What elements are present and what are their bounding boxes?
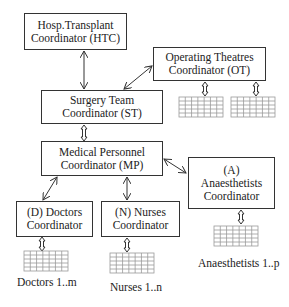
block-arrow-d-table [39, 237, 45, 251]
block-arrow-st-mp [81, 125, 87, 141]
label-anaesthetists: Anaesthetists 1..p [198, 257, 279, 269]
block-arrow-a-table [238, 210, 244, 224]
node-n: (N) Nurses Coordinator [101, 201, 180, 237]
label-doctors: Doctors 1..m [17, 276, 77, 288]
doctors-table-icon [24, 251, 68, 271]
block-arrow-ot-table-2 [253, 82, 259, 96]
arrow-mp-d [43, 177, 57, 200]
node-htc: Hosp.Transplant Coordinator (HTC) [24, 13, 127, 50]
node-d-line1: (D) Doctors [27, 206, 82, 219]
node-ot-line2: Coordinator (OT) [169, 64, 250, 77]
node-a-line2: Anaesthetists [201, 177, 262, 190]
nurses-table-icon [110, 253, 154, 273]
ot-table-2-icon [231, 97, 275, 117]
label-nurses: Nurses 1..n [110, 281, 162, 293]
arrow-mp-a [164, 159, 186, 173]
node-n-line2: Coordinator [113, 219, 169, 232]
node-htc-line1: Hosp.Transplant [38, 19, 114, 32]
block-arrow-ot-table-1 [202, 82, 208, 96]
node-st-line2: Coordinator (ST) [62, 107, 142, 120]
anaesthetists-table-icon [214, 226, 258, 246]
ot-table-1-icon [179, 97, 223, 117]
node-a-line3: Coordinator [204, 190, 260, 203]
arrow-st-ot [124, 66, 152, 89]
node-mp: Medical Personnel Coordinator (MP) [41, 141, 163, 176]
node-ot: Operating Theatres Coordinator (OT) [153, 47, 266, 81]
node-htc-line2: Coordinator (HTC) [31, 32, 120, 45]
node-n-line1: (N) Nurses [115, 206, 166, 219]
node-d-line2: Coordinator [27, 219, 83, 232]
node-st-line1: Surgery Team [70, 94, 134, 107]
node-a: (A) Anaesthetists Coordinator [188, 157, 275, 209]
node-mp-line2: Coordinator (MP) [61, 159, 144, 172]
node-ot-line1: Operating Theatres [165, 51, 253, 64]
node-st: Surgery Team Coordinator (ST) [41, 90, 163, 124]
node-mp-line1: Medical Personnel [59, 146, 145, 159]
block-arrow-n-table [124, 238, 130, 252]
node-a-line1: (A) [224, 164, 240, 177]
node-d: (D) Doctors Coordinator [16, 201, 93, 237]
